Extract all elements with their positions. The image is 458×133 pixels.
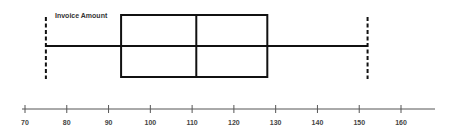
x-tick-label: 130 xyxy=(270,119,282,126)
x-tick-label: 140 xyxy=(312,119,324,126)
x-tick-label: 150 xyxy=(353,119,365,126)
x-tick-label: 100 xyxy=(144,119,156,126)
x-tick-label: 80 xyxy=(63,119,71,126)
x-tick-label: 70 xyxy=(21,119,29,126)
x-tick-label: 160 xyxy=(395,119,407,126)
box-plot xyxy=(0,0,458,133)
x-tick-label: 90 xyxy=(105,119,113,126)
x-tick-label: 120 xyxy=(228,119,240,126)
x-tick-label: 110 xyxy=(186,119,197,126)
